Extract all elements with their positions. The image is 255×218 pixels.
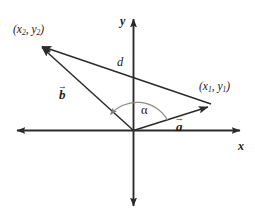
point-2-mid: , y — [26, 23, 37, 35]
point-2-sub2: 2 — [37, 28, 41, 37]
vector-a-accent: → — [175, 114, 184, 123]
y-axis-label: y — [120, 15, 125, 27]
point-1-close: ) — [226, 80, 230, 92]
point-2-close: ) — [40, 23, 44, 35]
vector-b-label: →b — [59, 88, 66, 101]
distance-d-line — [42, 47, 211, 105]
vector-diagram-figure: y x (x2, y2) (x1, y1) →b →a d α — [0, 0, 255, 218]
angle-alpha-label: α — [141, 104, 148, 117]
x-axis-label: x — [238, 140, 244, 152]
distance-d-label: d — [117, 56, 123, 69]
point-label-1: (x1, y1) — [199, 81, 230, 93]
vector-b-accent: → — [58, 82, 67, 91]
point-1-sub1: 1 — [208, 85, 212, 94]
point-1-base: (x — [199, 80, 208, 92]
point-label-2: (x2, y2) — [13, 24, 44, 36]
point-1-sub2: 1 — [223, 85, 227, 94]
vector-a-label: →a — [176, 120, 183, 133]
point-2-base: (x — [13, 23, 22, 35]
point-1-mid: , y — [212, 80, 223, 92]
point-2-sub1: 2 — [22, 28, 26, 37]
